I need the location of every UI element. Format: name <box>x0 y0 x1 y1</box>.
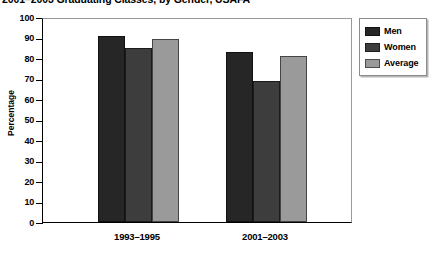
legend-item-label: Women <box>384 42 416 52</box>
bar-women-2001-2003 <box>253 81 280 222</box>
legend-swatch-icon <box>365 43 380 52</box>
plot-area <box>42 18 352 223</box>
y-axis-tick-label: 60 <box>2 96 34 105</box>
legend-item-label: Men <box>384 26 402 36</box>
y-axis-tick-label: 30 <box>2 157 34 166</box>
y-axis-tick-label: 50 <box>2 116 34 125</box>
legend-swatch-icon <box>365 59 380 68</box>
bar-men-2001-2003 <box>226 52 253 222</box>
y-axis-tick-label: 100 <box>2 14 34 23</box>
legend-item-average[interactable]: Average <box>365 56 422 70</box>
y-axis-tick-label: 40 <box>2 137 34 146</box>
bar-women-1993-1995 <box>125 48 152 222</box>
chart-legend: MenWomenAverage <box>359 18 427 76</box>
bar-men-1993-1995 <box>98 36 125 222</box>
chart-title: 2001–2003 Graduating Classes, by Gender,… <box>2 0 250 5</box>
legend-item-women[interactable]: Women <box>365 40 422 54</box>
y-axis-tick-label: 0 <box>2 219 34 228</box>
bar-average-2001-2003 <box>280 56 307 222</box>
legend-swatch-icon <box>365 27 380 36</box>
x-axis-label-0: 1993–1995 <box>77 231 197 242</box>
legend-item-label: Average <box>384 58 419 68</box>
x-axis-label-1: 2001–2003 <box>205 231 325 242</box>
y-axis-tick-label: 80 <box>2 55 34 64</box>
legend-item-men[interactable]: Men <box>365 24 422 38</box>
bar-average-1993-1995 <box>152 39 179 222</box>
y-axis-tick-label: 90 <box>2 34 34 43</box>
y-axis-tick-label: 10 <box>2 198 34 207</box>
y-axis-tick <box>36 223 43 224</box>
y-axis-tick-label: 70 <box>2 75 34 84</box>
y-axis-tick-label: 20 <box>2 178 34 187</box>
